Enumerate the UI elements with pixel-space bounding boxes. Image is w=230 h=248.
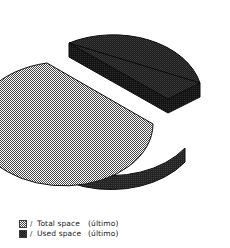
legend-separator: /: [30, 229, 32, 239]
legend-swatch-total-space: [19, 220, 27, 228]
legend-label-total-space: Total space: [37, 219, 80, 229]
legend-qualifier-total-space: (último): [88, 219, 118, 229]
chart-legend: / Total space (último) / Used space (últ…: [0, 214, 230, 244]
pie-chart-plot-area[interactable]: [0, 0, 230, 208]
legend-separator: /: [30, 219, 32, 229]
pie-chart-widget: / Total space (último) / Used space (últ…: [0, 0, 230, 248]
pie-chart-svg: [0, 0, 230, 208]
legend-swatch-used-space: [19, 230, 27, 238]
legend-label-used-space: Used space: [37, 229, 81, 239]
legend-qualifier-used-space: (último): [88, 229, 118, 239]
